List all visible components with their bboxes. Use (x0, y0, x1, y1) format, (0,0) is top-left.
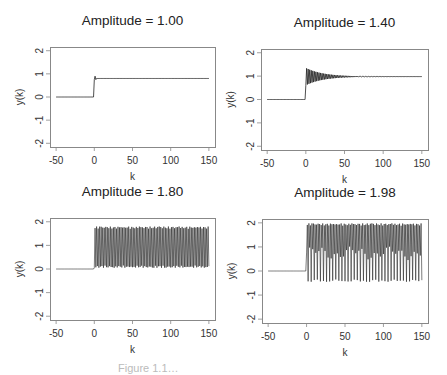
x-tick-label: -50 (49, 155, 64, 166)
series-line (267, 68, 422, 99)
y-tick-label: -2 (245, 141, 256, 150)
x-tick-label: -50 (261, 331, 276, 342)
y-axis-label: y(k) (14, 261, 25, 278)
x-tick-label: 50 (127, 155, 139, 166)
series-line (268, 223, 422, 281)
y-axis-label: y(k) (14, 89, 25, 106)
x-tick-label: 150 (201, 328, 218, 339)
x-tick-label: 0 (92, 328, 98, 339)
subplot-4: -50050100150-2-1012ky(k) (226, 220, 431, 359)
y-tick-label: 1 (245, 73, 256, 79)
figure-caption: Figure 1.1… (118, 362, 179, 374)
subplot-1: -50050100150-2-1012ky(k) (14, 47, 218, 182)
x-tick-label: 0 (303, 158, 309, 169)
y-tick-label: -1 (34, 115, 45, 124)
y-tick-label: 0 (34, 266, 45, 272)
y-tick-label: -2 (34, 311, 45, 320)
x-tick-label: 150 (413, 158, 430, 169)
y-axis-label: y(k) (225, 91, 236, 108)
y-tick-label: 1 (34, 242, 45, 248)
x-tick-label: 100 (162, 155, 179, 166)
x-tick-label: -50 (260, 158, 275, 169)
y-axis-label: y(k) (226, 263, 237, 280)
y-tick-label: -1 (245, 118, 256, 127)
subplot-3: -50050100150-2-1012ky(k) (14, 219, 218, 356)
x-tick-label: 150 (201, 155, 218, 166)
x-axis-label: k (343, 347, 349, 358)
y-tick-label: -2 (246, 314, 257, 323)
subplot-title: Amplitude = 1.40 (294, 15, 396, 30)
x-tick-label: 50 (127, 328, 139, 339)
plot-frame (51, 48, 216, 148)
series-line (56, 227, 209, 269)
x-tick-label: 100 (162, 328, 179, 339)
x-tick-label: 0 (304, 331, 310, 342)
x-tick-label: 100 (375, 158, 392, 169)
y-tick-label: 2 (245, 50, 256, 56)
y-tick-label: 0 (246, 268, 257, 274)
y-tick-label: 2 (246, 220, 257, 226)
subplot-title: Amplitude = 1.80 (82, 184, 184, 199)
x-axis-label: k (130, 344, 136, 355)
y-tick-label: 0 (34, 94, 45, 100)
x-tick-label: 50 (339, 158, 351, 169)
x-tick-label: 0 (92, 155, 98, 166)
x-axis-label: k (342, 174, 348, 185)
series-line (56, 76, 209, 97)
x-tick-label: 50 (339, 331, 351, 342)
y-tick-label: 2 (34, 47, 45, 53)
x-axis-label: k (130, 171, 136, 182)
y-tick-label: 2 (34, 219, 45, 225)
x-tick-label: 100 (375, 331, 392, 342)
y-tick-label: -1 (34, 288, 45, 297)
subplot-title: Amplitude = 1.00 (82, 13, 184, 28)
x-tick-label: 150 (414, 331, 431, 342)
y-tick-label: 1 (34, 71, 45, 77)
y-tick-label: 1 (246, 244, 257, 250)
subplot-2: -50050100150-2-1012ky(k) (225, 50, 431, 186)
plot-frame (262, 50, 429, 151)
x-tick-label: -50 (49, 328, 64, 339)
y-tick-label: -1 (246, 290, 257, 299)
y-tick-label: -2 (34, 138, 45, 147)
y-tick-label: 0 (245, 96, 256, 102)
subplot-title: Amplitude = 1.98 (294, 185, 396, 200)
